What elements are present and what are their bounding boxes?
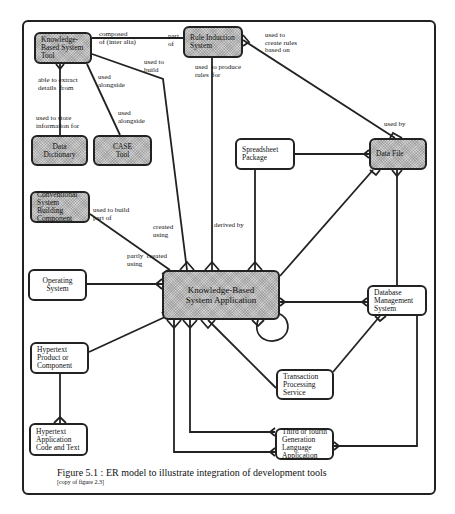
entity-spreadsheet[interactable]: Spreadsheet Package [235,138,295,170]
entity-conventional-component[interactable]: Conventional System Building Component [30,191,90,223]
label-used-to-build-part: used to build part of [93,207,129,222]
label-used-to-build: used to build [144,59,164,74]
entity-generation-language[interactable]: Third or fourth Generation Language Appl… [275,428,334,460]
entity-rule-induction[interactable]: Rule Induction System [183,26,243,58]
label-used-alongside-2: used alongside [118,110,145,125]
figure-subcaption: [copy of figure 2.3] [57,479,104,485]
entity-dbms[interactable]: Database Management System [367,285,427,316]
label-used-by: used by [384,121,406,129]
label-used-to-create: used to create rules based on [265,32,297,55]
entity-data-dictionary[interactable]: Data Dictionary [31,135,88,166]
er-diagram: Knowledge-Based System Tool Rule Inducti… [0,0,455,514]
entity-kbs-tool[interactable]: Knowledge-Based System Tool [34,32,92,64]
entity-hypertext-product[interactable]: Hypertext Product or Component [30,342,89,374]
label-derived-by: derived by [214,222,244,230]
entity-case-tool[interactable]: CASE Tool [93,135,152,166]
label-used-to-produce: used to produce rules for [195,64,241,79]
label-partly-created: partly created using [127,253,167,268]
entity-transaction-service[interactable]: Transaction Processing Service [276,369,334,400]
entity-kbs-application[interactable]: Knowledge-Based System Application [162,270,280,320]
entity-data-file[interactable]: Data File [369,138,427,170]
figure-caption: Figure 5.1 : ER model to illustrate inte… [57,467,327,478]
label-part-of: part of [168,33,179,48]
label-composed-of: composed of (inter alia) [99,31,136,46]
label-created-using: created using [153,224,173,239]
label-used-alongside-1: used alongside [98,74,125,89]
label-used-to-store: used to store information for [36,115,79,130]
entity-operating-system[interactable]: Operating System [28,269,87,301]
label-able-to-extract: able to extract details from [38,77,78,92]
entity-hypertext-code[interactable]: Hypertext Application Code and Text [29,423,88,456]
